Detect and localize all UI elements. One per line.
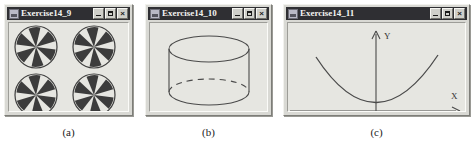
- pinwheel-bottom-right: [73, 74, 115, 112]
- title-bar[interactable]: Exercise14_10 ×: [148, 7, 269, 20]
- minimize-button[interactable]: [430, 8, 441, 19]
- close-button[interactable]: ×: [117, 8, 128, 19]
- parabola-curve: [316, 55, 438, 103]
- java-app-icon: [9, 9, 19, 19]
- window-exercise14-10[interactable]: Exercise14_10 ×: [145, 4, 272, 116]
- caption-a: (a): [4, 126, 133, 138]
- window-title: Exercise14_11: [300, 7, 430, 20]
- x-axis-label: X: [451, 91, 458, 101]
- parabola-plot-drawing: Y X: [288, 23, 466, 112]
- java-app-icon: [150, 9, 160, 19]
- window-controls: ×: [430, 8, 465, 19]
- window-controls: ×: [232, 8, 267, 19]
- window-exercise14-9[interactable]: Exercise14_9 ×: [4, 4, 133, 116]
- close-button[interactable]: ×: [256, 8, 267, 19]
- caption-c: (c): [283, 126, 470, 138]
- pinwheel-grid-drawing: [9, 23, 129, 112]
- window-exercise14-11[interactable]: Exercise14_11 × Y X: [283, 4, 470, 116]
- pinwheel-bottom-left: [15, 74, 57, 112]
- y-axis-label: Y: [384, 31, 391, 41]
- caption-b: (b): [145, 126, 272, 138]
- window-title: Exercise14_10: [162, 7, 232, 20]
- cylinder-top-ellipse: [169, 36, 249, 62]
- title-bar[interactable]: Exercise14_9 ×: [7, 7, 130, 20]
- canvas-cylinder: [149, 22, 268, 112]
- x-axis-arrowhead: [452, 107, 460, 112]
- window-controls: ×: [93, 8, 128, 19]
- minimize-button[interactable]: [93, 8, 104, 19]
- cylinder-bottom-front-arc: [169, 92, 249, 105]
- pinwheel-top-right: [73, 26, 115, 68]
- title-bar[interactable]: Exercise14_11 ×: [286, 7, 467, 20]
- maximize-button[interactable]: [244, 8, 255, 19]
- pinwheel-top-left: [15, 26, 57, 68]
- close-button[interactable]: ×: [454, 8, 465, 19]
- maximize-button[interactable]: [442, 8, 453, 19]
- java-app-icon: [288, 9, 298, 19]
- minimize-button[interactable]: [232, 8, 243, 19]
- maximize-button[interactable]: [105, 8, 116, 19]
- cylinder-bottom-hidden-arc: [169, 79, 249, 92]
- figure-container: Exercise14_9 ×: [0, 0, 472, 150]
- window-title: Exercise14_9: [21, 7, 93, 20]
- canvas-pinwheels: [8, 22, 129, 112]
- canvas-parabola: Y X: [287, 22, 466, 112]
- cylinder-drawing: [150, 23, 268, 112]
